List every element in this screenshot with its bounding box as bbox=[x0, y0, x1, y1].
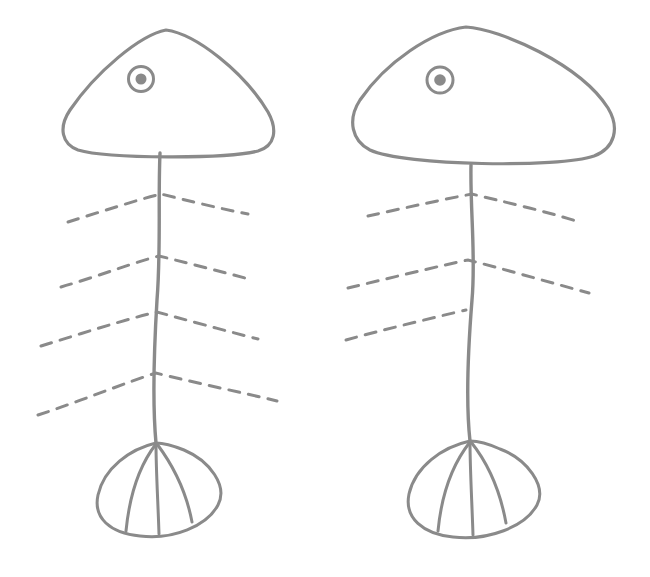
fish-skeleton-illustration bbox=[0, 0, 650, 577]
drawing-canvas bbox=[0, 0, 650, 577]
background bbox=[0, 0, 650, 577]
right-fish-eye-pupil bbox=[434, 74, 446, 86]
left-fish-eye-pupil bbox=[136, 74, 147, 85]
